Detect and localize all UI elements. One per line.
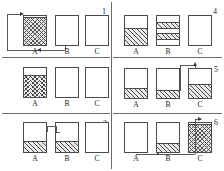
panel-number-6: 6: [214, 119, 218, 127]
panel-6-beaker-a: [124, 122, 148, 153]
panel-5-label-c: C: [192, 101, 208, 109]
panel-6: 6 A B C: [112, 113, 224, 171]
panel-4-beaker-b: [156, 15, 180, 46]
panel-4-beaker-a-fill: [125, 28, 147, 45]
panel-5-arrow-into-c: [193, 62, 197, 66]
panel-1-beaker-b: [55, 15, 79, 46]
panel-6-beaker-b-fill: [157, 143, 179, 152]
panel-5: 5 A B C: [112, 57, 224, 113]
panel-6-label-a: A: [128, 155, 144, 163]
panel-5-tube-riser-b: [180, 65, 181, 90]
panel-3-beaker-a-fill: [24, 141, 46, 152]
panel-4-beaker-c: [188, 15, 212, 46]
panel-2-beaker-b: [55, 67, 79, 98]
panel-3-beaker-b: [55, 122, 79, 153]
panel-1-beaker-c: [85, 15, 109, 46]
panel-5-label-a: A: [128, 101, 144, 109]
panel-6-arrow-into-c: [198, 117, 202, 121]
figure-six-panel-beaker-sequence: 1 A B C 2 A B C 3: [0, 0, 224, 171]
panel-5-tube-b-exit: [176, 90, 181, 91]
panel-1-label-c: C: [89, 48, 105, 56]
panel-5-beaker-b: [156, 68, 180, 99]
panel-4-label-a: A: [128, 48, 144, 56]
panel-4-beaker-b-fill-lower: [157, 33, 179, 40]
panel-1-tube-top-into-a: [7, 14, 20, 15]
panel-1-beaker-a: [23, 15, 47, 46]
panel-3-beaker-b-fill: [56, 141, 78, 152]
panel-4-label-b: B: [160, 48, 176, 56]
panel-2-beaker-c: [85, 67, 109, 98]
panel-2-beaker-a: [23, 67, 47, 98]
panel-6-tube-riser-c: [195, 119, 196, 154]
panel-5-beaker-a-fill: [125, 88, 147, 98]
panel-3-label-c: C: [89, 155, 105, 163]
panel-3-tube-cross: [47, 126, 56, 127]
panel-5-beaker-b-fill: [157, 90, 179, 98]
panel-3-label-b: B: [59, 155, 75, 163]
panel-3-beaker-a: [23, 122, 47, 153]
panel-4-label-c: C: [192, 48, 208, 56]
panel-6-label-c: C: [192, 155, 208, 163]
panel-2-label-b: B: [59, 100, 75, 108]
panel-1-beaker-a-fill: [24, 17, 46, 45]
panel-1-tube-left-riser: [7, 14, 8, 50]
panel-4-beaker-a: [124, 15, 148, 46]
panel-5-beaker-c-fill: [189, 84, 211, 98]
panel-5-beaker-c: [188, 68, 212, 99]
panel-3-tube-entry-b: [56, 132, 60, 133]
panel-6-beaker-c: [188, 122, 212, 153]
panel-3: 3 A B C: [0, 113, 111, 171]
panel-4-beaker-b-fill-upper: [157, 22, 179, 29]
panel-1: 1 A B C: [0, 0, 111, 57]
panel-5-beaker-a: [124, 68, 148, 99]
panel-3-label-a: A: [27, 155, 43, 163]
panel-2-beaker-a-fill: [24, 75, 46, 97]
panel-5-label-b: B: [160, 101, 176, 109]
panel-6-beaker-b: [156, 122, 180, 153]
panel-2-label-c: C: [89, 100, 105, 108]
panel-3-beaker-c: [85, 122, 109, 153]
panel-2-label-a: A: [27, 100, 43, 108]
panel-1-label-b: B: [59, 48, 75, 56]
panel-6-tube-junction-dot: [157, 153, 159, 155]
panel-1-arrow-into-a: [20, 12, 24, 16]
panel-6-label-b: B: [160, 155, 176, 163]
panel-4: 4 A B C: [112, 0, 224, 57]
panel-number-5: 5: [214, 66, 218, 74]
panel-6-beaker-c-fill: [189, 124, 211, 152]
panel-1-label-a: A: [27, 48, 43, 56]
panel-2: 2 A B C: [0, 57, 111, 113]
panel-number-4: 4: [213, 8, 217, 16]
